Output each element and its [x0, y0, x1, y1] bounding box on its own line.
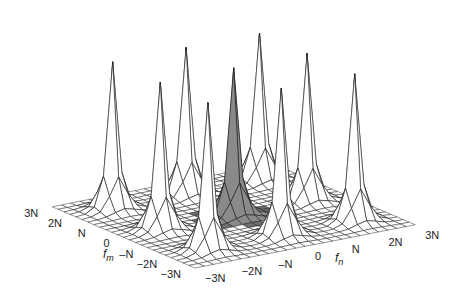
fm-tick-label: 2N — [48, 217, 62, 229]
fn-tick-label: −3N — [205, 272, 226, 284]
surface-plot: −3N−2N–N0N2N3N −3N−2N–N0N2N3N fm fn — [0, 0, 451, 297]
surface-facet — [177, 47, 192, 182]
fn-tick-label: 0 — [315, 250, 321, 262]
fm-tick-label: 3N — [24, 207, 38, 219]
surface-facet — [151, 82, 166, 217]
fm-tick-label: −2N — [137, 258, 158, 270]
fn-tick-label: –N — [278, 258, 292, 270]
fn-tick-label: 2N — [389, 236, 403, 248]
fn-tick-label: N — [352, 243, 360, 255]
surface-facet — [104, 62, 119, 197]
fm-tick-label: N — [78, 227, 86, 239]
highlighted-peak-facet — [225, 68, 240, 203]
surface-facet — [250, 33, 265, 168]
surface-facet — [298, 53, 313, 188]
fn-tick-label: 3N — [425, 229, 439, 241]
surface-facet — [346, 74, 361, 209]
fn-tick-label: −2N — [242, 265, 263, 277]
surface-mesh — [52, 33, 415, 268]
surface-facet — [272, 88, 287, 223]
fn-axis-label: fn — [335, 251, 343, 267]
surface-facet — [199, 103, 214, 238]
fm-tick-label: −3N — [161, 268, 182, 280]
fm-tick-label: –N — [119, 248, 133, 260]
